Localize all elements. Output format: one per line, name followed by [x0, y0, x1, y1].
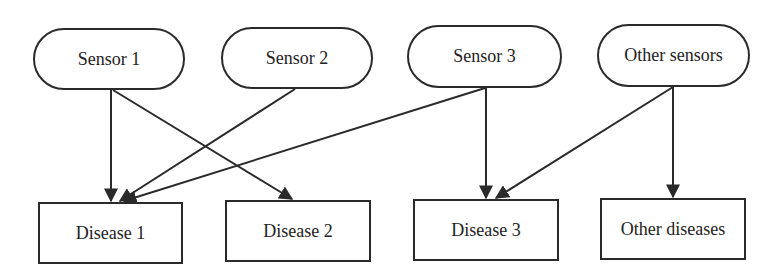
sensor-1-node: Sensor 1: [33, 28, 185, 90]
other-sensors-node: Other sensors: [597, 24, 750, 87]
disease-3-label: Disease 3: [451, 220, 520, 241]
disease-2-node: Disease 2: [225, 200, 371, 262]
arrow-edge: [113, 90, 292, 199]
sensor-1-label: Sensor 1: [78, 49, 141, 70]
disease-1-label: Disease 1: [76, 223, 145, 244]
sensor-2-label: Sensor 2: [266, 48, 329, 69]
disease-3-node: Disease 3: [413, 199, 559, 261]
other-diseases-label: Other diseases: [621, 219, 725, 240]
disease-2-label: Disease 2: [263, 221, 332, 242]
disease-1-node: Disease 1: [38, 202, 183, 264]
arrow-edge: [124, 88, 485, 201]
sensor-disease-diagram: Sensor 1 Sensor 2 Sensor 3 Other sensors…: [0, 0, 784, 277]
sensor-3-label: Sensor 3: [453, 46, 516, 67]
other-sensors-label: Other sensors: [624, 45, 722, 66]
other-diseases-node: Other diseases: [600, 198, 746, 260]
sensor-2-node: Sensor 2: [221, 27, 373, 89]
arrow-edge: [496, 87, 673, 198]
sensor-3-node: Sensor 3: [407, 25, 562, 88]
